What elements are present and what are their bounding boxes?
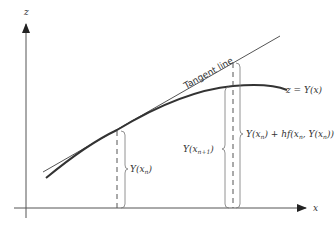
label-y-xn1: Y(xn+1) [183,144,214,155]
label-euler-estimate: Y(xn) + hf(xn, Y(xn)) [246,129,334,140]
curve-label: z = Y(x) [285,85,323,95]
brace-y-xn1 [222,87,229,208]
z-axis-label: z [23,7,29,17]
euler-method-diagram: z x Tangent line z = Y(x) Y(xn) Y(xn+1) … [0,0,336,229]
brace-y-xn [121,131,128,208]
x-axis-label: x [313,203,318,213]
tangent-line [43,36,280,172]
label-y-xn: Y(xn) [130,164,152,175]
